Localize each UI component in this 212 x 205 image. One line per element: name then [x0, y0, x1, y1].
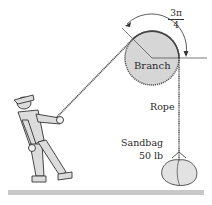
rope-label: Rope	[150, 101, 175, 112]
sandbag-name: Sandbag	[121, 136, 163, 149]
angle-numerator: 3π	[168, 8, 184, 20]
man-figure	[14, 95, 72, 182]
angle-denominator: 4	[173, 20, 179, 30]
sandbag-label: Sandbag 50 lb	[121, 136, 163, 162]
arrowhead-icon	[184, 51, 189, 57]
sandbag-weight: 50 lb	[121, 149, 163, 162]
branch-label: Branch	[134, 60, 171, 71]
angle-label: 3π 4	[168, 8, 184, 31]
ground	[8, 190, 204, 195]
